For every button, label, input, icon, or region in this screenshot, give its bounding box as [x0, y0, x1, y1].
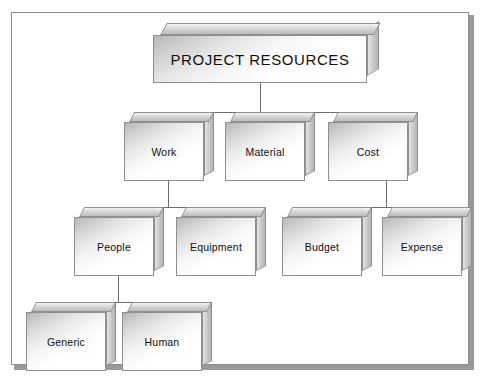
- diagram-frame: PROJECT RESOURCES Work Material Cost P: [11, 12, 469, 365]
- node-people[interactable]: People: [74, 217, 154, 276]
- node-label: Budget: [282, 217, 362, 276]
- connector-cost-stem: [386, 181, 387, 207]
- node-generic[interactable]: Generic: [26, 312, 106, 371]
- box-top-face: [287, 207, 372, 217]
- box-top-face: [230, 112, 315, 122]
- box-top-face: [387, 207, 472, 217]
- node-label: Human: [122, 312, 202, 371]
- node-budget[interactable]: Budget: [282, 217, 362, 276]
- connector-people-stem: [118, 276, 119, 302]
- node-label: People: [74, 217, 154, 276]
- node-project-resources[interactable]: PROJECT RESOURCES: [153, 35, 367, 83]
- box-top-face: [31, 302, 116, 312]
- node-label: PROJECT RESOURCES: [153, 35, 367, 83]
- connector-work-stem: [168, 181, 169, 207]
- node-label: Generic: [26, 312, 106, 371]
- node-work[interactable]: Work: [124, 122, 204, 181]
- node-equipment[interactable]: Equipment: [176, 217, 256, 276]
- box-top-face: [79, 207, 164, 217]
- node-cost[interactable]: Cost: [328, 122, 408, 181]
- box-top-face: [181, 207, 266, 217]
- connector-root-stem: [260, 83, 261, 112]
- diagram-canvas: PROJECT RESOURCES Work Material Cost P: [0, 0, 486, 383]
- box-top-face: [129, 112, 214, 122]
- box-top-face: [127, 302, 212, 312]
- node-label: Work: [124, 122, 204, 181]
- node-label: Material: [225, 122, 305, 181]
- node-label: Expense: [382, 217, 462, 276]
- node-material[interactable]: Material: [225, 122, 305, 181]
- node-expense[interactable]: Expense: [382, 217, 462, 276]
- node-human[interactable]: Human: [122, 312, 202, 371]
- box-top-face: [333, 112, 418, 122]
- box-top-face: [160, 23, 381, 35]
- node-label: Cost: [328, 122, 408, 181]
- node-label: Equipment: [176, 217, 256, 276]
